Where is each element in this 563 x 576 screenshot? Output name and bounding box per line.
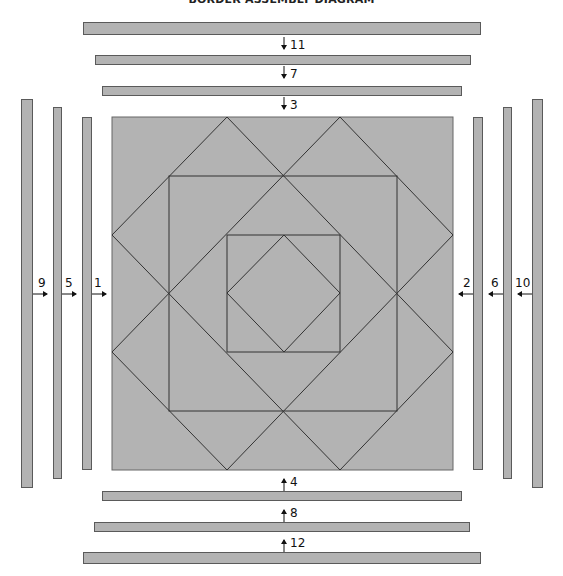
arrow-down-icon: [280, 66, 288, 80]
border-label-10: 10: [515, 277, 530, 289]
border-label-4: 4: [290, 476, 298, 488]
border-label-12: 12: [290, 537, 305, 549]
arrow-up-icon: [280, 538, 288, 552]
border-label-9: 9: [38, 277, 46, 289]
arrow-left-icon: [487, 290, 503, 298]
arrow-down-icon: [280, 37, 288, 51]
border-label-2: 2: [463, 277, 471, 289]
border-label-3: 3: [290, 99, 298, 111]
arrow-right-icon: [92, 290, 108, 298]
border-label-7: 7: [290, 68, 298, 80]
arrow-right-icon: [33, 290, 49, 298]
border-label-8: 8: [290, 507, 298, 519]
arrow-right-icon: [62, 290, 78, 298]
arrow-down-icon: [280, 97, 288, 111]
border-label-1: 1: [94, 277, 102, 289]
arrow-up-icon: [280, 508, 288, 522]
arrow-up-icon: [280, 477, 288, 491]
border-label-6: 6: [491, 277, 499, 289]
arrow-left-icon: [457, 290, 473, 298]
border-label-5: 5: [65, 277, 73, 289]
arrow-left-icon: [516, 290, 532, 298]
border-label-11: 11: [290, 39, 305, 51]
